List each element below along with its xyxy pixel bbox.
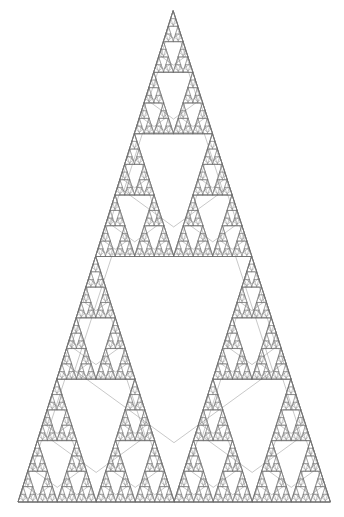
fractal-figure [0, 0, 344, 517]
fractal-drawing [0, 0, 344, 517]
